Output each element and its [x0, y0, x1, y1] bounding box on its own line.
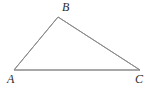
triangle-figure [0, 0, 154, 91]
vertex-label-a: A [7, 73, 14, 85]
edge-ab [14, 17, 58, 70]
edge-bc [58, 17, 140, 70]
vertex-label-b: B [62, 1, 69, 13]
triangle-outline [14, 17, 140, 70]
vertex-label-c: C [135, 73, 143, 85]
triangle-diagram: A B C [0, 0, 154, 91]
